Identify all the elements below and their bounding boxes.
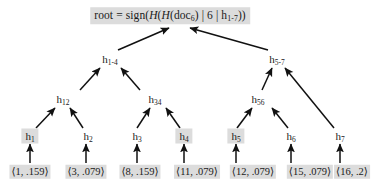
node-h5-7: h5-7 [269,54,284,65]
edge-h12-to-h1-4 [80,68,100,90]
node-h12-label: h12 [57,93,70,105]
node-h12-subscript: 12 [62,98,69,107]
edge-h56-to-h5-7 [262,68,272,90]
tuple-1: ⟨1, .159⟩ [9,167,50,178]
node-h34-base: h [149,93,155,105]
tuple-3: ⟨8, .159⟩ [119,167,160,178]
node-h34-label: h34 [149,93,162,105]
leaf-h1: h1 [21,131,38,142]
leaf-h2-label: h2 [83,130,92,142]
leaf-h3-base: h [132,130,138,142]
leaf-h6-label: h6 [286,130,295,142]
tuple-6-label: ⟨15, .079⟩ [287,165,333,179]
leaf-h1-label: h1 [21,129,38,144]
root-node: root = sign(H(H(doc6) | 6 | h1-7)) [90,10,250,22]
node-h34-subscript: 34 [154,98,161,107]
tuple-5-label: ⟨12, .079⟩ [230,165,276,179]
node-h5-7-subscript: 5-7 [275,58,285,67]
leaf-h3: h3 [132,131,141,142]
tuple-3-label: ⟨8, .159⟩ [119,165,160,179]
tuple-4: ⟨11, .079⟩ [174,167,220,178]
root-node-label: root = sign(H(H(doc6) | 6 | h1-7)) [90,7,250,24]
root-prefix: root = sign( [94,9,149,21]
tuple-7-label: ⟨16, .2⟩ [334,165,370,179]
node-h1-4: h1-4 [102,54,117,65]
leaf-h7-subscript: 7 [341,135,345,144]
leaf-h4: h4 [175,131,192,142]
node-h34: h34 [149,94,162,105]
leaf-h5-label: h5 [227,129,244,144]
leaf-h2-base: h [83,130,89,142]
tuple-1-label: ⟨1, .159⟩ [9,165,50,179]
leaf-h1-subscript: 1 [31,135,35,144]
leaf-h3-subscript: 3 [138,135,142,144]
node-h56-label: h56 [252,93,265,105]
root-doc-subscript: 6 [191,14,195,23]
leaf-h2-subscript: 2 [89,135,93,144]
merkle-tree-diagram: root = sign(H(H(doc6) | 6 | h1-7)) h1-4h… [0,0,372,186]
edge-h7-to-h5-7 [285,68,334,128]
node-h56-base: h [252,93,258,105]
edge-h2-to-h12 [70,108,83,128]
node-h1-4-label: h1-4 [102,53,117,65]
tuple-5: ⟨12, .079⟩ [230,167,276,178]
root-h-inner: H [162,9,170,21]
leaf-h2: h2 [83,131,92,142]
leaf-h5: h5 [227,131,244,142]
root-open2: (doc [170,9,191,21]
edge-h5-to-h56 [237,108,252,128]
leaf-h7: h7 [335,131,344,142]
edge-h4-to-h34 [166,108,180,128]
leaf-h1-base: h [25,130,31,142]
tuple-4-label: ⟨11, .079⟩ [174,165,220,179]
tuple-6: ⟨15, .079⟩ [287,167,333,178]
tuple-2-label: ⟨3, .079⟩ [65,165,106,179]
leaf-h7-base: h [335,130,341,142]
node-h1-4-subscript: 1-4 [108,58,118,67]
edge-h6-to-h56 [272,108,288,128]
tuple-7: ⟨16, .2⟩ [334,167,370,178]
leaf-h4-base: h [179,130,185,142]
leaf-h3-label: h3 [132,130,141,142]
node-h1-4-base: h [102,53,108,65]
leaf-h6-subscript: 6 [292,135,296,144]
leaf-h4-subscript: 4 [185,135,189,144]
root-hash-subscript: 1-7 [227,14,238,23]
root-separator-1: | [199,9,207,21]
leaf-h7-label: h7 [335,130,344,142]
root-separator-2: | [213,9,221,21]
leaf-h5-subscript: 5 [237,135,241,144]
edge-h1-to-h12 [36,108,55,128]
node-h5-7-label: h5-7 [269,53,284,65]
edge-h5-7-to-root [190,28,268,50]
node-h5-7-base: h [269,53,275,65]
edge-h34-to-h1-4 [121,68,140,90]
node-h12-base: h [57,93,63,105]
root-close-tail: )) [238,9,246,21]
leaf-h4-label: h4 [175,129,192,144]
edge-h1-4-to-root [118,28,169,50]
leaf-h6: h6 [286,131,295,142]
leaf-h5-base: h [231,130,237,142]
node-h56: h56 [252,94,265,105]
leaf-h6-base: h [286,130,292,142]
node-h56-subscript: 56 [257,98,264,107]
edge-h3-to-h34 [137,108,150,128]
node-h12: h12 [57,94,70,105]
tuple-2: ⟨3, .079⟩ [65,167,106,178]
